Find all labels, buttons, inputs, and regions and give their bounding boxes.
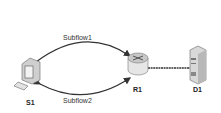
subflow2-arc: [40, 78, 130, 95]
subflow1-label: Subflow1: [63, 34, 92, 41]
r1-label: R1: [133, 86, 142, 93]
network-diagram: [0, 0, 221, 113]
r1-router-icon[interactable]: [128, 53, 148, 75]
s1-workstation-icon[interactable]: [14, 58, 40, 90]
d1-server-icon[interactable]: [190, 46, 206, 84]
subflow1-arc: [36, 42, 130, 62]
s1-label: S1: [26, 99, 35, 106]
subflow2-label: Subflow2: [63, 97, 92, 104]
d1-label: D1: [193, 86, 202, 93]
